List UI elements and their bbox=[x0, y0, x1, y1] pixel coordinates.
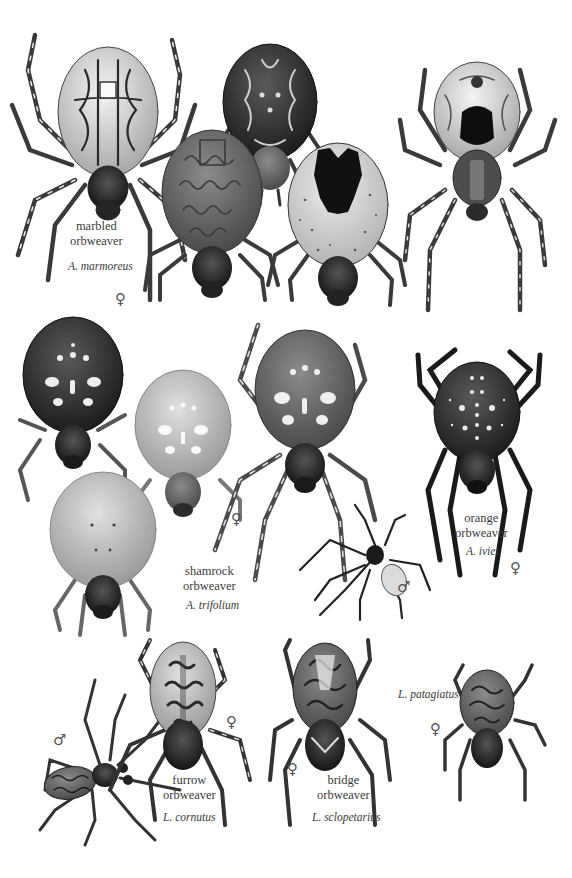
label-shamrock-scientific: A. trifolium bbox=[186, 598, 239, 612]
spider-orange-orbweaver-male bbox=[300, 505, 430, 620]
label-patagiatus-scientific: L. patagiatus bbox=[398, 687, 459, 701]
female-symbol-marbled: ♀ bbox=[115, 292, 126, 307]
label-marbled-common: marbled orbweaver bbox=[70, 219, 123, 249]
spider-orange-orbweaver-female bbox=[418, 350, 540, 575]
label-orange-common: orange orbweaver bbox=[455, 511, 508, 541]
spider-shamrock-main bbox=[215, 325, 375, 580]
label-orange-scientific: A. iviei bbox=[466, 544, 499, 558]
male-symbol-orange: ♂ bbox=[397, 580, 410, 595]
female-symbol-furrow: ♀ bbox=[226, 715, 237, 730]
label-bridge-scientific: L. sclopetarius bbox=[312, 810, 380, 824]
spider-illustrations bbox=[0, 0, 572, 878]
female-symbol-orange: ♀ bbox=[510, 561, 521, 576]
male-symbol-furrow: ♂ bbox=[53, 733, 66, 748]
female-symbol-bridge: ♀ bbox=[287, 762, 298, 777]
female-symbol-shamrock: ♀ bbox=[231, 512, 242, 527]
spider-plate: marbled orbweaver A. marmoreus ♀ shamroc… bbox=[0, 0, 572, 878]
spider-shamrock-plain-variant bbox=[50, 472, 156, 635]
female-symbol-patagiatus: ♀ bbox=[430, 722, 441, 737]
label-furrow-scientific: L. cornutus bbox=[163, 810, 215, 824]
label-bridge-common: bridge orbweaver bbox=[317, 773, 370, 803]
label-marbled-scientific: A. marmoreus bbox=[68, 259, 133, 273]
spider-marbled-ventral-view bbox=[400, 62, 555, 310]
spider-l-patagiatus bbox=[445, 665, 545, 800]
label-furrow-common: furrow orbweaver bbox=[163, 773, 216, 803]
label-shamrock-common: shamrock orbweaver bbox=[183, 564, 236, 594]
spider-shamrock-pale-variant bbox=[135, 370, 240, 520]
